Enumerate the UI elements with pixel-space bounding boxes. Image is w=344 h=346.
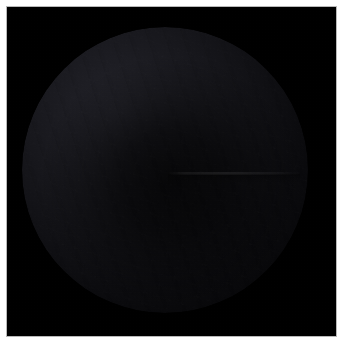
figure-root — [0, 0, 344, 346]
dark-sphere — [22, 27, 308, 313]
black-imaging-plate — [7, 7, 336, 336]
disc-edge-vignette — [22, 27, 308, 313]
